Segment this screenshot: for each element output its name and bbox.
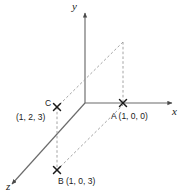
dashed-apex-to-c — [57, 42, 123, 107]
x-axis-label: x — [172, 106, 177, 117]
point-c-label: C — [45, 99, 51, 108]
point-b-marker — [54, 167, 61, 174]
axes-group — [12, 13, 172, 184]
dashed-construction-lines — [57, 42, 123, 170]
point-a-label: A (1, 0, 0) — [111, 112, 148, 121]
y-axis-label: y — [72, 1, 77, 12]
z-axis-label: z — [6, 181, 10, 192]
point-c-coords-label: (1, 2, 3) — [16, 113, 45, 122]
point-b-label: B (1, 0, 3) — [58, 177, 95, 186]
coordinate-diagram — [0, 0, 182, 195]
